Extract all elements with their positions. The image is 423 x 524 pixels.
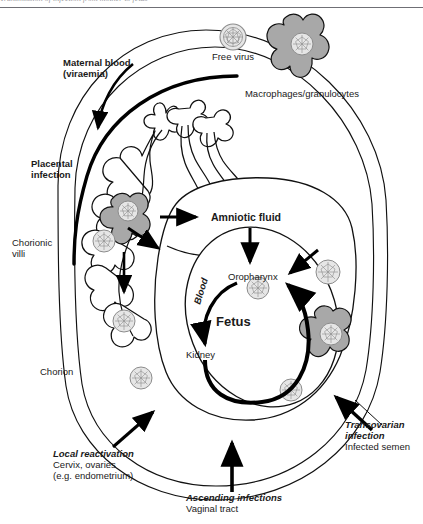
label-maternal-blood-line1: Maternal blood — [63, 57, 131, 68]
label-fetus: Fetus — [216, 314, 251, 329]
label-oropharynx: Oropharynx — [228, 271, 278, 282]
label-placental-infection-line1: Placental — [31, 158, 73, 169]
label-local-reactivation-line3: (e.g. endometrium) — [53, 470, 133, 481]
virus-particle-chorion-left — [113, 310, 135, 332]
label-free-virus: Free virus — [212, 51, 254, 62]
label-amniotic-fluid: Amniotic fluid — [211, 211, 281, 223]
label-transovarian-line3: Infected semen — [345, 441, 410, 452]
transmission-diagram: Free virus Macrophages/granulocytes Mate… — [0, 0, 423, 524]
label-maternal-blood-line2: (viraemia) — [63, 68, 108, 79]
label-macrophages-granulocytes: Macrophages/granulocytes — [245, 88, 359, 99]
label-chorion: Chorion — [40, 366, 73, 377]
label-ascending-infections-line2: Vaginal tract — [186, 503, 238, 514]
virus-particle-free-virus — [220, 24, 246, 50]
label-kidney: Kidney — [186, 349, 215, 360]
virus-particle-chorion-lower-left — [130, 367, 152, 389]
label-chorionic-villi-line1: Chorionic — [12, 237, 52, 248]
label-placental-infection-line2: infection — [31, 169, 71, 180]
macrophage-cell-top-right — [267, 14, 329, 77]
label-chorionic-villi-line2: villi — [12, 248, 25, 259]
virus-particle-chorion-right-upper — [316, 260, 340, 284]
label-transovarian-line2: infection — [345, 430, 385, 441]
arrow-icon-local-reactivation — [113, 412, 153, 447]
virus-particle-villi — [93, 230, 115, 252]
label-local-reactivation-line2: Cervix, ovaries — [53, 459, 116, 470]
label-transovarian-line1: Transovarian — [345, 419, 405, 430]
label-local-reactivation-line1: Local reactivation — [53, 448, 134, 459]
label-ascending-infections-line1: Ascending infections — [185, 492, 282, 503]
